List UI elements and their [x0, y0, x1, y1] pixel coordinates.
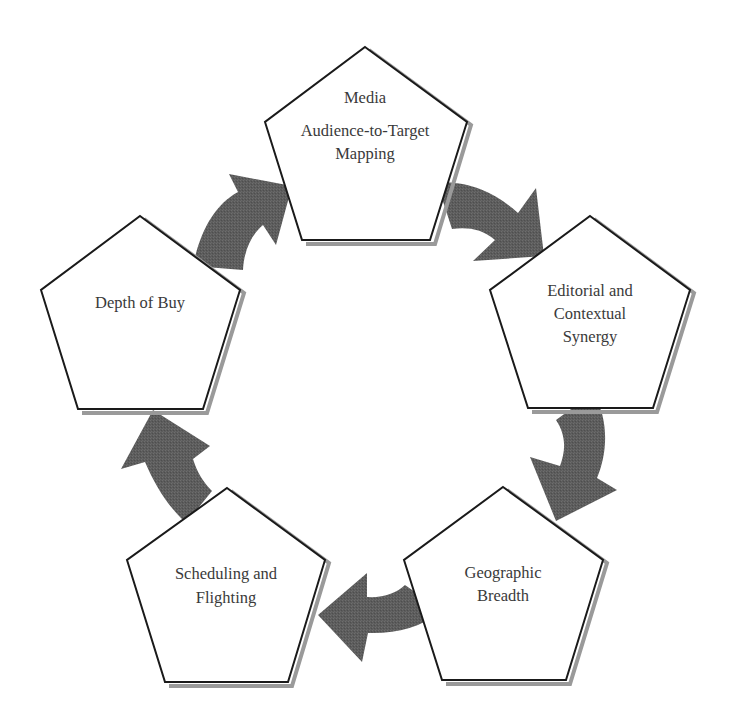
media-line-2: Audience-to-Target: [301, 121, 430, 140]
editorial-line-3: Synergy: [563, 327, 618, 346]
geographic-line-1: Geographic: [465, 563, 542, 582]
editorial-line-2: Contextual: [554, 304, 627, 323]
depth-line-1: Depth of Buy: [95, 293, 186, 312]
arrow-scheduling-to-depth: [121, 410, 212, 523]
arrow-media-to-editorial: [437, 183, 544, 261]
editorial-line-1: Editorial and: [547, 281, 633, 300]
scheduling-line-2: Flighting: [196, 588, 257, 607]
scheduling-line-1: Scheduling and: [175, 564, 278, 583]
media-cycle-diagram: Media Audience-to-Target Mapping Editori…: [0, 0, 729, 713]
media-title: Media: [344, 88, 387, 107]
geographic-line-2: Breadth: [477, 586, 530, 605]
node-geographic: [404, 487, 603, 680]
media-line-3: Mapping: [335, 144, 395, 163]
node-scheduling: [127, 488, 325, 682]
